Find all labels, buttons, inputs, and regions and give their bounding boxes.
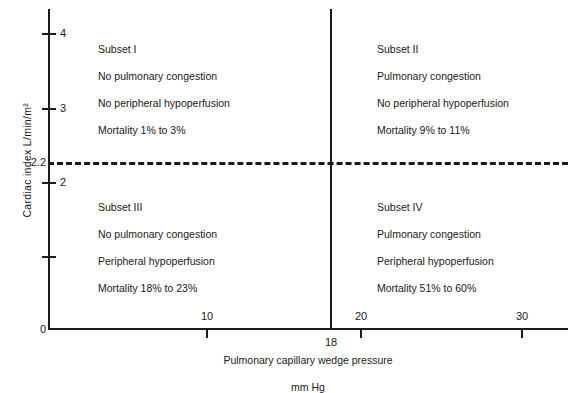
quadrant-1-perfusion: No peripheral hypoperfusion	[98, 98, 230, 109]
quadrant-4-congestion: Pulmonary congestion	[377, 229, 494, 240]
quadrant-subset-3: Subset III No pulmonary congestion Perip…	[98, 202, 217, 294]
x-tick-label-30: 30	[502, 311, 542, 322]
quadrant-3-mortality: Mortality 18% to 23%	[98, 283, 217, 294]
x-axis-title: Pulmonary capillary wedge pressure mm Hg	[48, 355, 568, 392]
quadrant-4-title: Subset IV	[377, 202, 494, 213]
x-tick-label-18: 18	[311, 337, 351, 348]
y-tick-2	[42, 182, 56, 184]
x-axis-title-line1: Pulmonary capillary wedge pressure	[48, 355, 568, 366]
quadrant-2-congestion: Pulmonary congestion	[377, 71, 509, 82]
x-tick-label-20: 20	[341, 311, 381, 322]
x-tick-20	[360, 330, 362, 338]
quadrant-2-mortality: Mortality 9% to 11%	[377, 125, 509, 136]
quadrant-2-title: Subset II	[377, 44, 509, 55]
quadrant-4-perfusion: Peripheral hypoperfusion	[377, 256, 494, 267]
y-tick-label-3: 3	[60, 103, 66, 114]
forrester-subsets-chart: 4 3 2.2 2 0 10 18 20 30 Subset I No pulm…	[0, 0, 578, 393]
x-axis-line	[48, 328, 568, 330]
y-axis-title: Cardiac index L/min/m²	[22, 60, 33, 260]
y-tick-4	[42, 33, 56, 35]
vertical-divider-18mmhg	[330, 9, 332, 330]
quadrant-3-title: Subset III	[98, 202, 217, 213]
quadrant-1-title: Subset I	[98, 44, 230, 55]
quadrant-1-congestion: No pulmonary congestion	[98, 71, 230, 82]
quadrant-2-perfusion: No peripheral hypoperfusion	[377, 98, 509, 109]
y-tick-3	[42, 108, 56, 110]
y-tick-label-4: 4	[60, 28, 66, 39]
y-axis-line	[48, 9, 50, 329]
x-tick-30	[521, 330, 523, 338]
horizontal-divider-2point2	[48, 162, 568, 165]
x-axis-title-units: mm Hg	[48, 382, 568, 393]
y-tick-label-0: 0	[16, 324, 46, 335]
quadrant-subset-1: Subset I No pulmonary congestion No peri…	[98, 44, 230, 136]
quadrant-1-mortality: Mortality 1% to 3%	[98, 125, 230, 136]
quadrant-3-congestion: No pulmonary congestion	[98, 229, 217, 240]
y-tick-label-2: 2	[60, 177, 66, 188]
quadrant-subset-4: Subset IV Pulmonary congestion Periphera…	[377, 202, 494, 294]
x-tick-10	[206, 330, 208, 338]
quadrant-subset-2: Subset II Pulmonary congestion No periph…	[377, 44, 509, 136]
y-tick-1	[42, 256, 56, 258]
quadrant-4-mortality: Mortality 51% to 60%	[377, 283, 494, 294]
quadrant-3-perfusion: Peripheral hypoperfusion	[98, 256, 217, 267]
x-tick-label-10: 10	[187, 311, 227, 322]
